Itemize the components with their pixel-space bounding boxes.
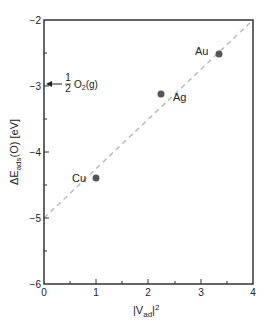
label-cu: Cu	[72, 172, 86, 184]
svg-text:2: 2	[65, 83, 71, 94]
point-ag	[158, 91, 165, 98]
label-au: Au	[195, 45, 208, 57]
point-au	[216, 51, 223, 58]
point-cu	[93, 175, 100, 182]
x-tick-3: 3	[198, 287, 204, 298]
chart-canvas: 0 1 2 3 4 −2 −3 −4 −5 −6 |Vad|2 ΔEads(O)…	[0, 0, 267, 325]
y-tick-m6: −6	[30, 279, 42, 290]
svg-text:1: 1	[65, 72, 71, 83]
y-tick-m3: −3	[30, 81, 42, 92]
o2-annotation: 1 2 O2(g)	[46, 72, 98, 94]
x-axis-label: |Vad|2	[133, 303, 160, 319]
x-tick-2: 2	[145, 287, 151, 298]
svg-text:O2(g): O2(g)	[74, 79, 98, 91]
label-ag: Ag	[173, 91, 186, 103]
x-tick-1: 1	[93, 287, 99, 298]
y-tick-m2: −2	[30, 15, 42, 26]
x-tick-4: 4	[250, 287, 256, 298]
plot-frame	[44, 20, 253, 284]
fit-line	[44, 20, 253, 218]
x-tick-0: 0	[41, 287, 47, 298]
y-tick-m4: −4	[30, 147, 42, 158]
y-tick-m5: −5	[30, 213, 42, 224]
y-axis-label: ΔEads(O) [eV]	[8, 119, 23, 185]
